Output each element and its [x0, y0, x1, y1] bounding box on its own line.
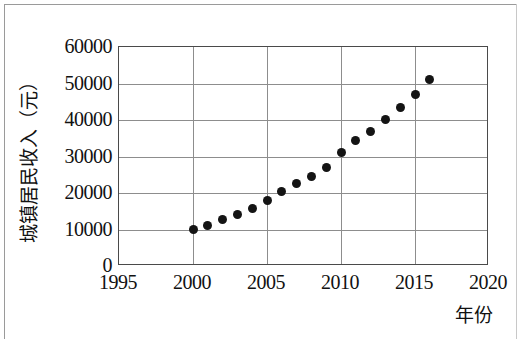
x-axis-tick-label: 1995 [83, 272, 153, 292]
chart-figure: 0100002000030000400005000060000 19952000… [0, 0, 521, 343]
data-point [233, 210, 242, 219]
x-axis-tick-labels: 199520002005201020152020 [0, 272, 521, 300]
gridline-horizontal [119, 193, 487, 194]
x-axis-title: 年份 [455, 305, 493, 327]
y-axis-title: 城镇居民收入（元） [19, 52, 41, 262]
y-axis-tick-label: 10000 [65, 219, 113, 239]
gridline-horizontal [119, 120, 487, 121]
data-point [189, 225, 198, 234]
y-axis-tick-label: 50000 [65, 73, 113, 93]
gridline-horizontal [119, 84, 487, 85]
gridline-vertical [415, 47, 416, 264]
gridline-horizontal [119, 230, 487, 231]
gridline-horizontal [119, 157, 487, 158]
x-axis-tick-label: 2010 [305, 272, 375, 292]
data-point [307, 172, 316, 181]
gridline-vertical [267, 47, 268, 264]
data-point [351, 136, 360, 145]
data-point [396, 103, 405, 112]
x-axis-tick-label: 2020 [453, 272, 521, 292]
data-point [366, 127, 375, 136]
data-point [218, 215, 227, 224]
x-axis-tick-label: 2015 [379, 272, 449, 292]
data-point [292, 179, 301, 188]
data-point [411, 90, 420, 99]
y-axis-tick-label: 60000 [65, 36, 113, 56]
y-axis-tick-label: 30000 [65, 146, 113, 166]
data-point [203, 221, 212, 230]
data-point [381, 115, 390, 124]
data-point [263, 196, 272, 205]
data-point [337, 148, 346, 157]
data-point [322, 163, 331, 172]
data-point [277, 187, 286, 196]
x-axis-tick-label: 2005 [231, 272, 301, 292]
x-axis-tick-label: 2000 [157, 272, 227, 292]
data-point [248, 204, 257, 213]
y-axis-tick-label: 40000 [65, 109, 113, 129]
plot-area [118, 46, 488, 265]
y-axis-tick-label: 20000 [65, 182, 113, 202]
